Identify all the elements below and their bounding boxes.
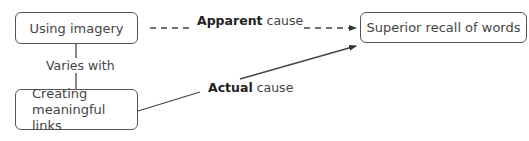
edge-label-apparent-cause: Apparent cause	[197, 13, 303, 28]
actual-line-lower	[138, 92, 200, 111]
edge-label-bold: Apparent	[197, 13, 263, 28]
actual-line-upper	[240, 46, 356, 79]
node-label-line2: meaningful links	[32, 102, 137, 134]
edge-label-bold: Actual	[208, 80, 253, 95]
edge-label-rest: cause	[253, 80, 294, 95]
node-superior-recall: Superior recall of words	[360, 12, 527, 43]
node-label: Superior recall of words	[366, 20, 520, 35]
edge-label-text: Varies with	[46, 58, 115, 73]
node-label: Using imagery	[29, 21, 123, 36]
edge-label-rest: cause	[263, 13, 304, 28]
node-label-line1: Creating	[32, 86, 137, 102]
node-creating-meaningful-links: Creating meaningful links	[15, 89, 138, 130]
node-using-imagery: Using imagery	[15, 12, 138, 44]
edge-label-varies-with: Varies with	[45, 58, 116, 73]
edge-label-actual-cause: Actual cause	[208, 80, 293, 95]
